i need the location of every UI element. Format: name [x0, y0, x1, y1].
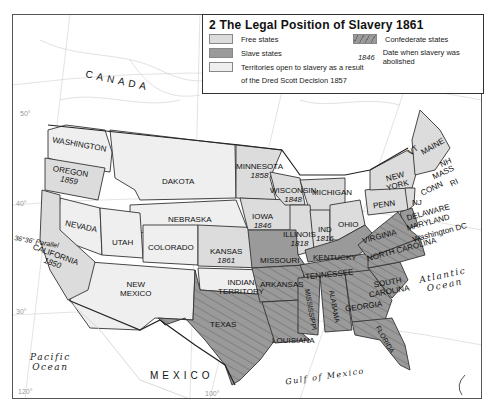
territory-swatch [209, 62, 233, 72]
label-new-mexico: NEWMEXICO [120, 280, 152, 298]
label-mexico: MEXICO [150, 370, 213, 381]
label-louisiana: LOUISIANA [272, 336, 315, 345]
label-michigan: MICHIGAN [312, 188, 352, 197]
label-ohio: OHIO [338, 220, 358, 229]
legend-free-label: Free states [241, 35, 279, 44]
label-missouri: MISSOURI [260, 256, 300, 265]
lat-30: 30° [16, 308, 27, 315]
label-iowa: IOWA1846 [252, 212, 273, 230]
free-swatch [209, 34, 233, 44]
label-kentucky: KENTUCKY [313, 253, 357, 262]
label-indian-territory: INDIANTERRITORY [218, 278, 264, 296]
legend-free: Free states [209, 34, 279, 44]
legend-slave-label: Slave states [241, 49, 282, 58]
lat-40: 40° [16, 200, 27, 207]
lon-100: 100° [205, 390, 219, 397]
label-arkansas: ARKANSAS [260, 280, 304, 289]
lon-120: 120° [18, 388, 32, 395]
legend-slave: Slave states [209, 48, 282, 58]
legend-confederate: Confederate states [353, 34, 448, 44]
confederate-swatch [353, 34, 377, 44]
legend-date-label: Date when slavery was abolished [383, 48, 483, 66]
label-illinois: ILLINOIS1818 [283, 230, 316, 248]
label-utah: UTAH [112, 238, 133, 247]
slave-swatch [209, 48, 233, 58]
label-nj: NJ [412, 198, 422, 207]
label-indiana: IND1816 [316, 225, 334, 243]
legend-territory-label: Territories open to slavery as a result [241, 63, 364, 72]
legend-territory-line2: of the Dred Scott Decision 1857 [241, 76, 347, 85]
legend-confederate-label: Confederate states [385, 35, 448, 44]
label-colorado: COLORADO [148, 243, 194, 252]
label-nebraska: NEBRASKA [168, 215, 212, 224]
legend-date: 1846 Date when slavery was abolished [353, 48, 483, 66]
legend: 2 The Legal Position of Slavery 1861 Fre… [202, 14, 484, 94]
label-texas: TEXAS [210, 320, 236, 329]
label-wisconsin: WISCONSIN1848 [270, 186, 316, 204]
lat-50: 50° [20, 110, 31, 117]
label-kansas: KANSAS1861 [210, 247, 242, 265]
label-pacific: PacificOcean [30, 352, 71, 372]
legend-title: 2 The Legal Position of Slavery 1861 [209, 18, 477, 32]
label-minnesota: MINNESOTA1858 [236, 162, 283, 180]
legend-territory-label2: of the Dred Scott Decision 1857 [241, 76, 347, 85]
legend-date-sample: 1846 [353, 53, 375, 62]
label-dakota: DAKOTA [162, 177, 194, 186]
legend-territory: Territories open to slavery as a result [209, 62, 364, 72]
utah-territory [100, 208, 143, 258]
